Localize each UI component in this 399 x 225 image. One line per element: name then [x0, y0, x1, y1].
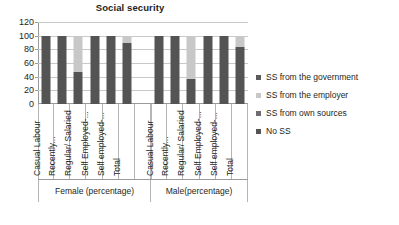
y-tick-label: 80 — [0, 45, 34, 54]
legend-item[interactable]: No SS — [256, 122, 399, 140]
bar-slot — [38, 22, 54, 104]
stacked-bar[interactable] — [203, 36, 212, 104]
category-label-text: Regular/ Salaried — [177, 110, 186, 176]
bar-segment — [235, 36, 244, 48]
legend-swatch-icon — [256, 111, 261, 116]
bar-segment — [187, 36, 196, 79]
bar-slot — [103, 22, 119, 104]
bar-slot — [216, 22, 232, 104]
bar-slot — [151, 22, 167, 104]
category-label-text: Regular/ Salaried — [64, 110, 73, 176]
legend-swatch-icon — [256, 75, 261, 80]
legend-item[interactable]: SS from the government — [256, 68, 399, 86]
bar-slot — [119, 22, 135, 104]
bar-segment — [74, 36, 83, 72]
stacked-bar[interactable] — [122, 36, 131, 104]
category-label-text: Self Employed-... — [194, 111, 203, 176]
bar-segment — [122, 36, 131, 43]
category-label-text: Self employed-... — [97, 112, 106, 176]
bar-slot — [200, 22, 216, 104]
legend-item[interactable]: SS from the employer — [256, 86, 399, 104]
bar-segment — [106, 36, 115, 104]
bar-series-container — [38, 22, 248, 104]
bar-slot — [54, 22, 70, 104]
category-label-text: Casual Labour — [146, 121, 155, 176]
legend-label: SS from own sources — [266, 109, 347, 118]
y-tick-label: 60 — [0, 59, 34, 68]
category-tick-label: Total — [232, 104, 248, 179]
legend-label: SS from the employer — [266, 91, 348, 100]
stacked-bar[interactable] — [58, 36, 67, 104]
stacked-bar[interactable] — [171, 36, 180, 104]
y-tick-label: 40 — [0, 72, 34, 81]
bar-segment — [203, 36, 212, 104]
chart-root: Social security 020406080100120 Casual L… — [0, 0, 399, 225]
bar-segment — [187, 79, 196, 104]
bar-slot — [232, 22, 248, 104]
group-label: Female (percentage) — [38, 180, 151, 202]
y-tick-label: 20 — [0, 86, 34, 95]
category-label-band: Casual LabourRecently...Regular/ Salarie… — [38, 104, 248, 180]
y-tick-label: 120 — [0, 18, 34, 27]
stacked-bar[interactable] — [90, 36, 99, 104]
stacked-bar[interactable] — [155, 36, 164, 104]
category-label-text: Self employed-... — [210, 112, 219, 176]
group-label-band: Female (percentage)Male(percentage) — [38, 180, 248, 202]
legend-label: No SS — [266, 127, 291, 136]
bar-segment — [42, 36, 51, 104]
bar-slot — [167, 22, 183, 104]
bar-segment — [171, 36, 180, 104]
bar-segment — [155, 36, 164, 104]
y-tick-label: 100 — [0, 31, 34, 40]
stacked-bar[interactable] — [235, 36, 244, 104]
category-label-text: Casual Labour — [33, 121, 42, 176]
category-label-text: Total — [113, 158, 122, 176]
bar-segment — [74, 72, 83, 104]
y-tick-label: 0 — [0, 100, 34, 109]
legend-swatch-icon — [256, 93, 261, 98]
bar-segment — [235, 47, 244, 104]
group-label: Male(percentage) — [151, 180, 248, 202]
bar-segment — [122, 43, 131, 105]
legend-label: SS from the government — [266, 73, 358, 82]
bar-segment — [90, 36, 99, 104]
legend: SS from the governmentSS from the employ… — [256, 68, 399, 140]
stacked-bar[interactable] — [219, 36, 228, 104]
stacked-bar[interactable] — [187, 36, 196, 104]
bar-segment — [219, 36, 228, 104]
stacked-bar[interactable] — [106, 36, 115, 104]
y-axis-labels: 020406080100120 — [0, 22, 34, 104]
bar-slot — [183, 22, 199, 104]
legend-item[interactable]: SS from own sources — [256, 104, 399, 122]
stacked-bar[interactable] — [74, 36, 83, 104]
plot-area — [38, 22, 248, 104]
category-label-text: Recently... — [161, 136, 170, 176]
category-label-text: Total — [226, 158, 235, 176]
bar-segment — [58, 36, 67, 104]
legend-swatch-icon — [256, 129, 261, 134]
category-tick-label: Total — [119, 104, 135, 179]
stacked-bar[interactable] — [42, 36, 51, 104]
category-label-text: Self Employed-... — [81, 111, 90, 176]
bar-slot — [86, 22, 102, 104]
bar-slot — [70, 22, 86, 104]
chart-title: Social security — [0, 2, 260, 13]
category-label-text: Recently... — [48, 136, 57, 176]
